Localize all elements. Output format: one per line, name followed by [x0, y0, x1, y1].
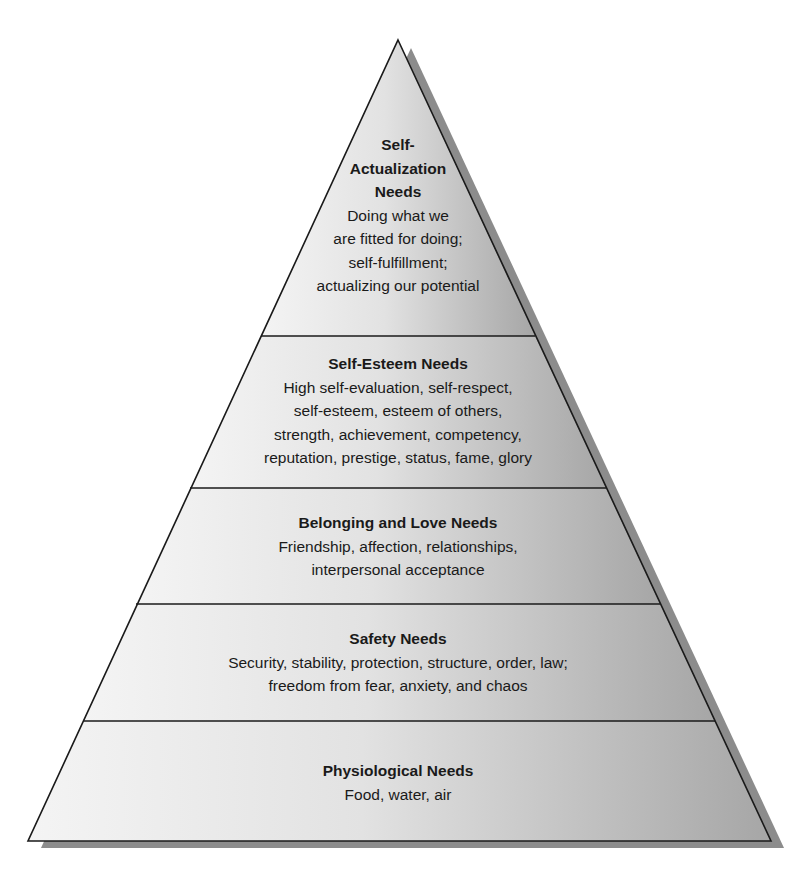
title-line: Actualization [317, 157, 480, 181]
level-description: Friendship, affection, relationships, in… [278, 535, 517, 582]
description-line: interpersonal acceptance [278, 558, 517, 582]
description-line: Food, water, air [323, 783, 474, 807]
description-line: Security, stability, protection, structu… [228, 651, 568, 675]
description-line: High self-evaluation, self-respect, [264, 376, 532, 400]
description-line: freedom from fear, anxiety, and chaos [228, 674, 568, 698]
level-self-actualization: Self- Actualization Needs Doing what we … [317, 133, 480, 298]
level-description: High self-evaluation, self-respect, self… [264, 376, 532, 470]
description-line: self-esteem, esteem of others, [264, 399, 532, 423]
level-title: Belonging and Love Needs [278, 511, 517, 535]
description-line: Doing what we [317, 204, 480, 228]
description-line: strength, achievement, competency, [264, 423, 532, 447]
level-self-esteem: Self-Esteem Needs High self-evaluation, … [264, 352, 532, 470]
level-safety: Safety Needs Security, stability, protec… [228, 627, 568, 698]
level-title: Self- Actualization Needs [317, 133, 480, 204]
description-line: reputation, prestige, status, fame, glor… [264, 446, 532, 470]
level-title: Self-Esteem Needs [264, 352, 532, 376]
description-line: Friendship, affection, relationships, [278, 535, 517, 559]
level-title: Safety Needs [228, 627, 568, 651]
level-description: Food, water, air [323, 783, 474, 807]
level-description: Security, stability, protection, structu… [228, 651, 568, 698]
description-line: are fitted for doing; [317, 227, 480, 251]
description-line: self-fulfillment; [317, 251, 480, 275]
level-description: Doing what we are fitted for doing; self… [317, 204, 480, 298]
level-belonging-love: Belonging and Love Needs Friendship, aff… [278, 511, 517, 582]
description-line: actualizing our potential [317, 274, 480, 298]
level-physiological: Physiological Needs Food, water, air [323, 759, 474, 806]
title-line: Needs [317, 180, 480, 204]
title-line: Self- [317, 133, 480, 157]
needs-pyramid-diagram: Self- Actualization Needs Doing what we … [0, 0, 809, 871]
level-title: Physiological Needs [323, 759, 474, 783]
